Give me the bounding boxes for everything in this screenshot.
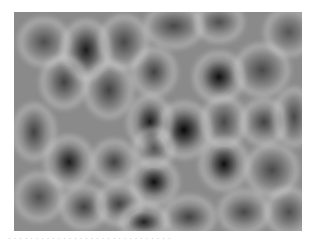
cell-core [28,27,60,57]
cell-core [109,24,139,60]
cell-core [139,168,169,196]
cell-core [228,199,260,225]
cellular-texture-image [14,12,302,231]
cell-core [141,57,167,87]
cell-core [255,153,289,187]
cell-core [275,197,302,227]
cell-core [70,194,98,220]
cell-core [24,182,54,212]
cell-core [203,61,235,93]
cell-core [101,149,127,175]
cell-core [283,97,302,137]
cell-core [211,105,237,139]
cell-core [274,17,302,47]
cell-core [94,71,124,109]
cut-off-caption: · · · · · · · · · · · · · · · · · · · · … [8,234,308,241]
cell-core [22,113,46,151]
cell-core [209,147,239,181]
cell-core [50,65,78,99]
cell-core [204,12,234,33]
cell-core [244,53,280,87]
cell-core [172,205,206,229]
cell-core [54,145,84,179]
cell-core [154,13,194,39]
cell-core [143,137,165,159]
cell-core [129,212,159,231]
